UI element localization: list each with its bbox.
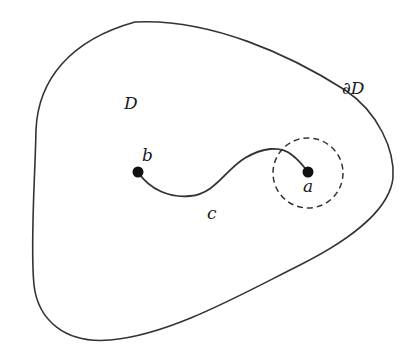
point-a-label: a — [303, 176, 313, 196]
region-label: D — [123, 93, 138, 113]
point-b-label: b — [142, 145, 153, 165]
point-b — [133, 167, 144, 178]
domain-boundary — [32, 22, 393, 341]
curve-label: c — [207, 203, 217, 223]
curve-c — [138, 149, 308, 196]
boundary-label: ∂D — [342, 78, 365, 98]
diagram-canvas: D ∂D b a c — [0, 0, 410, 357]
